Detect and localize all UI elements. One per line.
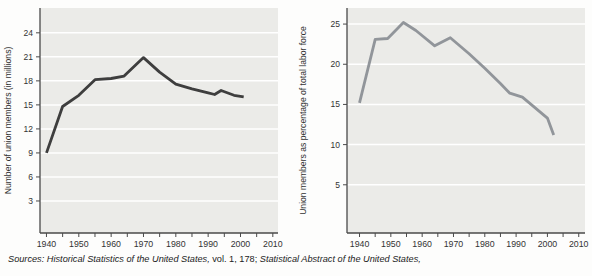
x-tick-label: 1970 [444, 239, 464, 249]
y-tick-label: 6 [28, 172, 33, 182]
left-chart-union-members-millions: 3691215182124194019501960197019801990200… [0, 0, 296, 252]
x-tick-label: 1990 [198, 239, 218, 249]
y-tick-label: 24 [24, 28, 34, 38]
x-tick-label: 2010 [569, 239, 589, 249]
x-tick-label: 1980 [475, 239, 495, 249]
y-tick-label: 9 [28, 148, 33, 158]
y-tick-label: 21 [24, 52, 34, 62]
x-tick-label: 1940 [350, 239, 370, 249]
x-tick-label: 2000 [538, 239, 558, 249]
y-tick-label: 12 [24, 124, 34, 134]
x-tick-label: 1950 [69, 239, 89, 249]
y-tick-label: 3 [28, 196, 33, 206]
y-tick-label: 20 [331, 59, 341, 69]
y-tick-label: 10 [331, 140, 341, 150]
x-tick-label: 1970 [134, 239, 154, 249]
x-tick-label: 1950 [381, 239, 401, 249]
right-chart-union-percentage: 5101520251940195019601970198019902000201… [296, 0, 592, 252]
y-tick-label: 25 [331, 19, 341, 29]
source-note-segment: vol. 1, 178; [210, 254, 260, 264]
plot-area [40, 8, 278, 233]
source-note: Sources: Historical Statistics of the Un… [8, 253, 421, 265]
union-membership-figure: 3691215182124194019501960197019801990200… [0, 0, 592, 276]
x-tick-label: 1960 [101, 239, 121, 249]
y-tick-label: 15 [24, 100, 34, 110]
y-tick-label: 15 [331, 99, 341, 109]
source-note-segment: Statistical Abstract of the United State… [260, 254, 421, 264]
y-axis-label: Number of union members (in millions) [3, 47, 13, 195]
source-note-segment: Historical Statistics of the United Stat… [47, 254, 210, 264]
x-tick-label: 1980 [166, 239, 186, 249]
x-tick-label: 1940 [37, 239, 57, 249]
y-tick-label: 5 [335, 180, 340, 190]
x-tick-label: 2000 [231, 239, 251, 249]
x-tick-label: 2010 [263, 239, 283, 249]
y-tick-label: 18 [24, 76, 34, 86]
x-tick-label: 1990 [506, 239, 526, 249]
source-note-segment: Sources: [8, 254, 47, 264]
y-axis-label: Union members as percentage of total lab… [298, 26, 308, 215]
x-tick-label: 1960 [412, 239, 432, 249]
